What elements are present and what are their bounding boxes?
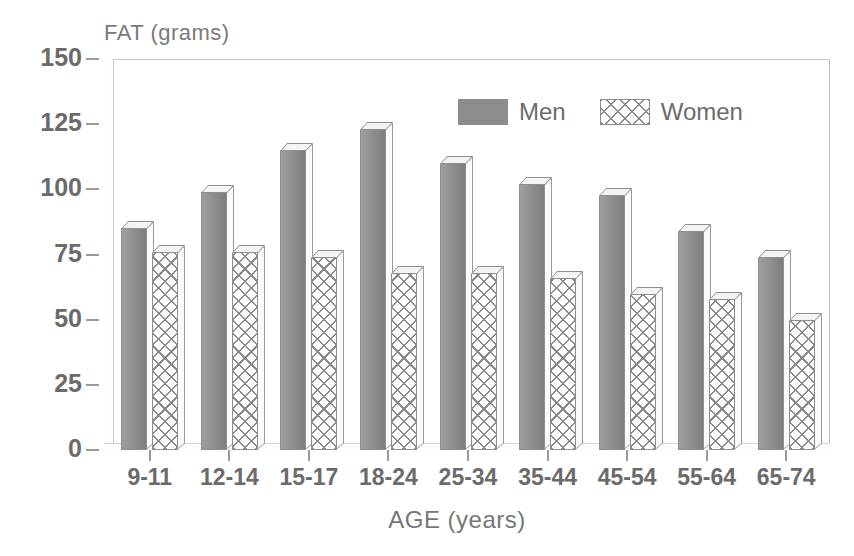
y-axis-tick-label: 150 — [40, 43, 82, 72]
x-axis-tick-label: 55-64 — [677, 464, 736, 491]
bar-side-face — [177, 245, 185, 450]
x-axis-tick-mark — [308, 450, 310, 461]
x-axis-tick-mark — [467, 450, 469, 461]
bar-side-face — [575, 271, 583, 450]
y-axis-tick-label: 0 — [68, 434, 82, 463]
bar-side-face — [496, 266, 504, 450]
y-axis-tick-mark — [86, 58, 99, 60]
bar-men[interactable] — [440, 163, 466, 450]
bar-women[interactable] — [391, 273, 417, 450]
bar-front-face — [789, 320, 815, 450]
y-axis-tick-mark — [86, 319, 99, 321]
bar-side-face — [336, 250, 344, 450]
bar-group — [280, 59, 337, 450]
y-axis-tick-label: 50 — [54, 304, 82, 333]
bar-men[interactable] — [758, 257, 784, 450]
legend-swatch-women — [600, 99, 650, 125]
legend: MenWomen — [458, 98, 743, 126]
bar-front-face — [678, 231, 704, 450]
bar-front-face — [152, 252, 178, 450]
bar-front-face — [280, 150, 306, 450]
x-axis-tick-mark — [785, 450, 787, 461]
bar-front-face — [360, 129, 386, 450]
bar-front-face — [121, 228, 147, 450]
x-axis-tick-mark — [228, 450, 230, 461]
bar-chart: FAT (grams) 0255075100125150 9-1112-1415… — [0, 0, 854, 556]
bar-group — [758, 59, 815, 450]
bar-front-face — [440, 163, 466, 450]
x-axis-tick-label: 15-17 — [279, 464, 338, 491]
bar-side-face — [416, 266, 424, 450]
legend-swatch-men — [458, 99, 508, 125]
x-axis-tick-mark — [626, 450, 628, 461]
legend-label: Women — [661, 98, 743, 126]
bar-side-face — [257, 245, 265, 450]
bar-group — [360, 59, 417, 450]
x-axis-tick-label: 18-24 — [359, 464, 418, 491]
y-axis-tick-mark — [86, 384, 99, 386]
bar-group — [201, 59, 258, 450]
bar-women[interactable] — [550, 278, 576, 450]
bar-men[interactable] — [599, 195, 625, 450]
bar-front-face — [311, 257, 337, 450]
x-axis-tick-label: 35-44 — [518, 464, 577, 491]
y-axis-tick-mark — [86, 449, 99, 451]
plot-left-wall — [104, 59, 114, 450]
bar-side-face — [734, 292, 742, 450]
x-axis-title: AGE (years) — [0, 506, 854, 534]
bar-women[interactable] — [789, 320, 815, 450]
bar-front-face — [630, 294, 656, 450]
x-axis-tick-label: 9-11 — [127, 464, 172, 491]
bar-women[interactable] — [152, 252, 178, 450]
bar-women[interactable] — [709, 299, 735, 450]
bar-side-face — [655, 287, 663, 450]
x-axis-tick-mark — [547, 450, 549, 461]
bar-front-face — [232, 252, 258, 450]
bar-men[interactable] — [678, 231, 704, 450]
bar-men[interactable] — [201, 192, 227, 450]
y-axis-tick-label: 75 — [54, 239, 82, 268]
x-axis-tick-label: 25-34 — [439, 464, 498, 491]
x-axis-tick-label: 12-14 — [200, 464, 259, 491]
x-axis-tick-label: 45-54 — [598, 464, 657, 491]
bar-front-face — [201, 192, 227, 450]
x-axis-tick-mark — [149, 450, 151, 461]
bar-men[interactable] — [280, 150, 306, 450]
bar-front-face — [550, 278, 576, 450]
x-axis-tick-label: 65-74 — [757, 464, 816, 491]
y-axis-tick-mark — [86, 123, 99, 125]
legend-item-women[interactable]: Women — [600, 98, 743, 126]
x-axis-tick-mark — [387, 450, 389, 461]
y-axis-tick-mark — [86, 254, 99, 256]
bar-front-face — [709, 299, 735, 450]
y-axis-tick-label: 25 — [54, 369, 82, 398]
bar-front-face — [391, 273, 417, 450]
legend-item-men[interactable]: Men — [458, 98, 566, 126]
bar-front-face — [758, 257, 784, 450]
y-axis-tick-label: 100 — [40, 173, 82, 202]
y-axis-title: FAT (grams) — [104, 20, 230, 46]
bar-women[interactable] — [311, 257, 337, 450]
bar-men[interactable] — [121, 228, 147, 450]
bar-men[interactable] — [519, 184, 545, 450]
bar-women[interactable] — [471, 273, 497, 450]
y-axis-tick-mark — [86, 188, 99, 190]
bar-front-face — [471, 273, 497, 450]
bar-women[interactable] — [630, 294, 656, 450]
bar-side-face — [814, 313, 822, 450]
y-axis-tick-label: 125 — [40, 108, 82, 137]
bar-front-face — [599, 195, 625, 450]
bar-front-face — [519, 184, 545, 450]
bar-women[interactable] — [232, 252, 258, 450]
bar-men[interactable] — [360, 129, 386, 450]
x-axis-tick-mark — [706, 450, 708, 461]
y-axis: 0255075100125150 — [0, 0, 104, 556]
legend-label: Men — [519, 98, 566, 126]
bar-group — [121, 59, 178, 450]
x-axis: 9-1112-1415-1718-2425-3435-4445-5455-646… — [114, 450, 830, 510]
